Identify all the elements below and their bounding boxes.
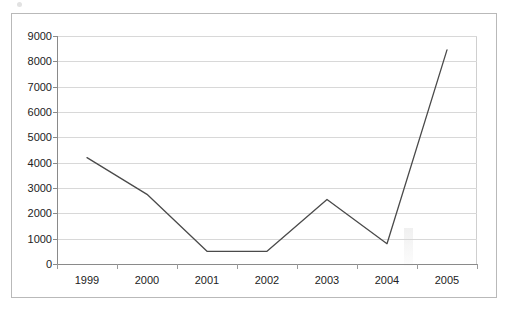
x-axis-label-2002: 2002 [237, 274, 297, 286]
x-tick-3 [237, 264, 238, 269]
gridline-3000 [57, 188, 477, 189]
y-axis-label-3000: 3000 [8, 183, 52, 194]
y-tick-9000 [53, 36, 57, 37]
x-axis-label-2004: 2004 [357, 274, 417, 286]
plot-right-border [476, 36, 477, 264]
y-tick-3000 [53, 188, 57, 189]
y-tick-8000 [53, 61, 57, 62]
x-tick-6 [417, 264, 418, 269]
y-axis-label-5000: 5000 [8, 132, 52, 143]
x-tick-2 [177, 264, 178, 269]
x-tick-5 [357, 264, 358, 269]
y-axis-label-2000: 2000 [8, 208, 52, 219]
y-tick-4000 [53, 163, 57, 164]
gridline-9000 [57, 36, 477, 37]
y-tick-5000 [53, 137, 57, 138]
x-tick-0 [57, 264, 58, 269]
x-axis-label-2001: 2001 [177, 274, 237, 286]
y-axis-label-6000: 6000 [8, 107, 52, 118]
y-axis-labels: 9000 8000 7000 6000 5000 4000 3000 2000 … [5, 0, 52, 300]
y-axis-line [57, 36, 58, 265]
x-tick-1 [117, 264, 118, 269]
x-axis-line [57, 264, 478, 265]
y-tick-2000 [53, 213, 57, 214]
x-axis-label-2003: 2003 [297, 274, 357, 286]
chart-page: 9000 8000 7000 6000 5000 4000 3000 2000 … [0, 0, 510, 314]
x-axis-label-2005: 2005 [417, 274, 477, 286]
y-axis-label-7000: 7000 [8, 82, 52, 93]
y-axis-label-8000: 8000 [8, 56, 52, 67]
x-axis-label-2000: 2000 [117, 274, 177, 286]
y-tick-1000 [53, 239, 57, 240]
plot-area [57, 36, 477, 264]
y-axis-label-1000: 1000 [8, 234, 52, 245]
x-tick-4 [297, 264, 298, 269]
y-tick-7000 [53, 87, 57, 88]
y-axis-label-4000: 4000 [8, 158, 52, 169]
gridline-7000 [57, 87, 477, 88]
y-tick-6000 [53, 112, 57, 113]
y-axis-label-9000: 9000 [8, 31, 52, 42]
gridline-2000 [57, 213, 477, 214]
gridline-4000 [57, 163, 477, 164]
gridline-8000 [57, 61, 477, 62]
y-axis-label-0: 0 [8, 259, 52, 270]
gridline-1000 [57, 239, 477, 240]
gridline-5000 [57, 137, 477, 138]
x-axis-label-1999: 1999 [57, 274, 117, 286]
x-tick-7 [477, 264, 478, 269]
gridline-6000 [57, 112, 477, 113]
